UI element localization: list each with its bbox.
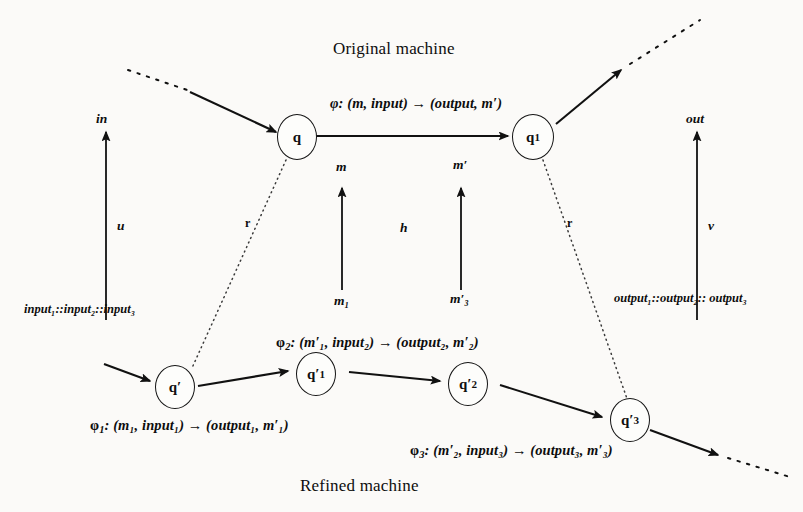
state-node-q1-sub: 1 — [534, 131, 540, 143]
edge-outgoing-top — [556, 70, 621, 124]
edge-qp2-to-qp3 — [500, 385, 602, 417]
state-node-q-prime-2-sub: 2 — [472, 378, 478, 390]
memory-label-m: m — [336, 160, 347, 174]
edge-state-refinement-left — [192, 160, 286, 368]
state-node-q-prime-label: q′ — [169, 379, 182, 396]
state-node-q-label: q — [293, 129, 301, 146]
formula-phi3: φ3: (m′₂, input₃) → (output₃, m′₃) — [410, 443, 613, 460]
edge-incoming-top — [190, 92, 276, 132]
refined-memory-label-m1: m₁ — [334, 294, 349, 308]
refinement-label-r-left: r — [245, 217, 250, 229]
memory-label-m-prime: m′ — [453, 158, 467, 172]
abstraction-label-v: v — [708, 219, 714, 233]
edge-incoming-refined — [104, 364, 150, 381]
edge-incoming-dashed-top — [128, 70, 193, 92]
refined-memory-label-mprime3: m′₃ — [450, 292, 469, 306]
input-sequence-label: input₁::input₂::input₃ — [24, 303, 135, 316]
formula-phi3-rest: : (m′₂, input₃) → (output₃, m′₃) — [424, 442, 612, 458]
title-refined-machine: Refined machine — [300, 477, 419, 494]
abstraction-label-u: u — [117, 219, 125, 233]
state-node-q-prime-2[interactable]: q′2 — [448, 362, 488, 406]
state-node-q-prime-1-sub: 1 — [320, 368, 326, 380]
state-node-q[interactable]: q — [277, 114, 317, 160]
formula-phi3-symbol: φ — [410, 442, 419, 458]
io-label-out: out — [686, 112, 704, 126]
title-original-machine: Original machine — [333, 40, 455, 57]
edge-outgoing-refined-dashed — [728, 458, 790, 477]
formula-phi2: φ2: (m′₁, input₂) → (output₂, m′₂) — [276, 335, 479, 352]
output-sequence-label: output₁::output₂:: output₃ — [614, 292, 747, 305]
state-node-q-prime-3-label: q′ — [621, 412, 634, 429]
refinement-label-r-right: r — [567, 217, 572, 229]
formula-phi1: φ1: (m₁, input₁) → (output₁, m′₁) — [90, 418, 289, 435]
io-label-in: in — [96, 112, 107, 126]
state-node-q-prime-1[interactable]: q′1 — [296, 352, 336, 396]
state-node-q1-label: q — [526, 129, 534, 146]
diagram-canvas: Original machine Refined machine φ: (m, … — [0, 0, 803, 512]
abstraction-label-h: h — [400, 221, 408, 235]
formula-phi1-rest: : (m₁, input₁) → (output₁, m′₁) — [104, 417, 288, 433]
edge-qp1-to-qp2 — [349, 372, 440, 381]
state-node-q-prime-3-sub: 3 — [634, 414, 640, 426]
state-node-q-prime-1-label: q′ — [307, 366, 320, 383]
formula-phi2-rest: : (m′₁, input₂) → (output₂, m′₂) — [290, 334, 478, 350]
state-node-q-prime-2-label: q′ — [459, 376, 472, 393]
formula-phi1-symbol: φ — [90, 417, 99, 433]
formula-phi-original-text: φ: (m, input) → (output, m′) — [330, 95, 502, 111]
edge-outgoing-dashed-top — [630, 20, 700, 64]
formula-phi-original: φ: (m, input) → (output, m′) — [330, 96, 502, 111]
state-node-q-prime[interactable]: q′ — [155, 365, 195, 409]
edge-outgoing-refined — [650, 430, 718, 455]
state-node-q-prime-3[interactable]: q′3 — [610, 398, 650, 442]
edge-state-refinement-right — [543, 160, 631, 410]
edge-qp-to-qp1 — [198, 371, 288, 386]
formula-phi2-symbol: φ — [276, 334, 285, 350]
state-node-q1[interactable]: q1 — [512, 114, 554, 160]
